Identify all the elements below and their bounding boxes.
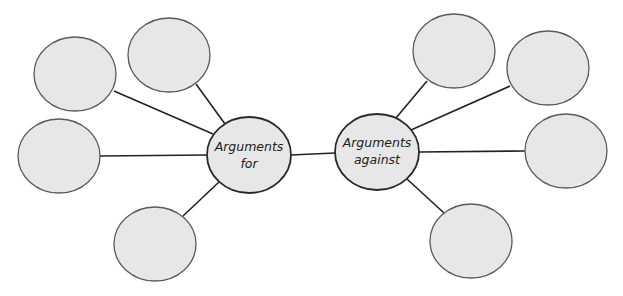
center-label-for: Arguments for [215,138,284,172]
against-node-2[interactable] [507,31,589,105]
for-node-3[interactable] [18,119,100,193]
connector-for-1 [114,91,213,134]
center-label-against-line1: Arguments [343,134,412,151]
for-node-4[interactable] [114,207,196,281]
center-label-against-line2: against [343,151,412,168]
center-label-for-line1: Arguments [215,138,284,155]
against-node-4[interactable] [430,204,512,278]
connector-for-4 [183,182,219,216]
connector-for-2 [196,84,225,124]
argument-spider-diagram: Arguments for Arguments against [0,0,623,296]
connector-for-3 [100,155,207,156]
against-node-1[interactable] [413,14,495,88]
connector-against-1 [396,81,427,118]
diagram-svg [0,0,623,296]
outer-nodes-for [18,18,210,281]
connector-against-3 [419,151,525,152]
center-label-against: Arguments against [343,134,412,168]
connector-against-4 [407,179,444,213]
center-label-for-line2: for [215,155,284,172]
connector-for-against [291,153,335,155]
connector-lines [100,81,525,216]
for-node-2[interactable] [128,18,210,92]
connector-against-2 [411,86,510,130]
for-node-1[interactable] [34,37,116,111]
outer-nodes-against [413,14,607,278]
against-node-3[interactable] [525,114,607,188]
